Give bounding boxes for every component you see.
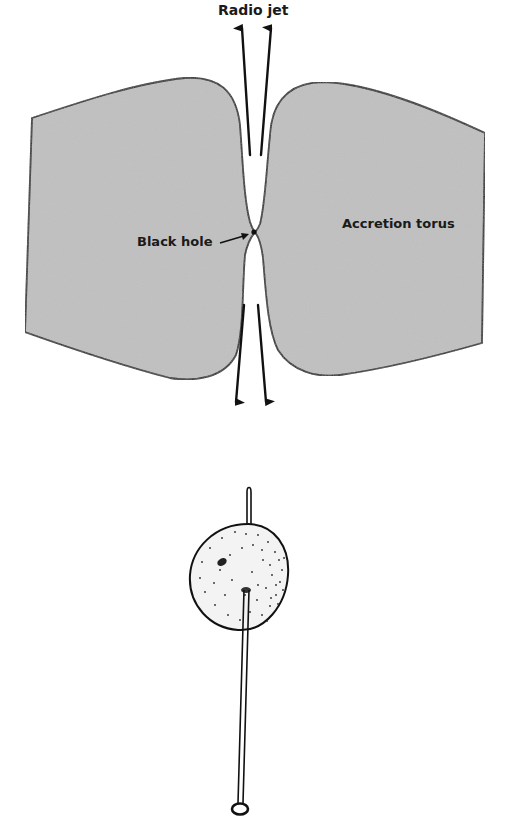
accretion-torus-diagram: Radio jet Black hole Accretion torus xyxy=(0,0,509,840)
accretion-torus-left xyxy=(25,78,255,380)
black-hole xyxy=(251,229,256,234)
pin-shaft-upper xyxy=(247,488,251,526)
jet-arrow-up-left xyxy=(242,28,250,155)
jet-arrow-down-right xyxy=(258,305,266,402)
bead xyxy=(190,524,288,630)
radio-jet-arrows-up xyxy=(242,28,271,155)
label-accretion-torus: Accretion torus xyxy=(342,216,455,231)
pin-through-bead-analogy xyxy=(190,488,288,815)
pin-head xyxy=(232,804,248,815)
label-black-hole: Black hole xyxy=(137,234,213,249)
label-radio-jet: Radio jet xyxy=(218,2,289,18)
